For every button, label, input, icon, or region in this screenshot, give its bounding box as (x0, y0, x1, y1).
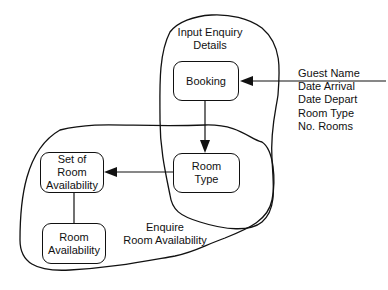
attribute-date-arrival: Date Arrival (298, 80, 360, 93)
node-label: Type (195, 173, 219, 186)
node-set-of-room-availability[interactable]: Set of Room Availability (40, 152, 104, 193)
node-booking[interactable]: Booking (173, 61, 239, 101)
node-label: Availability (46, 179, 98, 192)
region-label-line: Details (170, 39, 250, 52)
node-room-availability[interactable]: Room Availability (42, 223, 106, 264)
region-label-input-enquiry-details: Input Enquiry Details (170, 26, 250, 52)
node-label: Room (57, 166, 86, 179)
arrowhead-set-of-room-availability (104, 167, 117, 177)
attribute-date-depart: Date Depart (298, 93, 360, 106)
region-label-line: Enquire (110, 221, 220, 234)
node-label: Set of (58, 153, 87, 166)
arrowhead-booking (240, 76, 253, 86)
node-label: Room (192, 160, 221, 173)
node-label: Room (59, 231, 88, 244)
node-label: Booking (186, 75, 226, 88)
attribute-no-rooms: No. Rooms (298, 120, 360, 133)
region-label-enquire-room-availability: Enquire Room Availability (110, 221, 220, 247)
region-label-line: Input Enquiry (170, 26, 250, 39)
attribute-guest-name: Guest Name (298, 67, 360, 80)
region-label-line: Room Availability (110, 234, 220, 247)
attribute-room-type: Room Type (298, 107, 360, 120)
arrowhead-room-type (200, 140, 210, 153)
node-label: Availability (48, 244, 100, 257)
node-room-type[interactable]: Room Type (173, 153, 240, 193)
input-attributes-list: Guest Name Date Arrival Date Depart Room… (298, 67, 360, 133)
